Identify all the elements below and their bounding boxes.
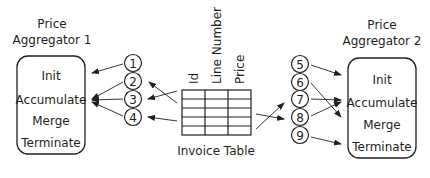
arrow-table-to-4 xyxy=(148,117,177,121)
arrow-5-to-init xyxy=(311,65,341,75)
arrow-9-to-terminate xyxy=(311,137,341,144)
svg-text:1: 1 xyxy=(129,57,137,71)
right-nodes: 5 6 7 8 9 xyxy=(292,56,309,144)
arrow-1-to-init xyxy=(92,64,123,73)
column-header-id: Id xyxy=(187,73,201,84)
left-nodes: 1 2 3 4 xyxy=(125,55,142,126)
aggregator-2-op-accumulate: Accumulate xyxy=(347,96,418,110)
node-6: 6 xyxy=(292,74,309,91)
aggregator-1-op-init: Init xyxy=(41,69,60,83)
invoice-table: Id Line Number Price Invoice Table xyxy=(177,7,255,158)
aggregator-2-op-terminate: Terminate xyxy=(351,140,411,154)
aggregator-2-title-line1: Price xyxy=(367,18,396,32)
diagram-canvas: Price Aggregator 1 Init Accumulate Merge… xyxy=(0,0,430,178)
arrows-to-aggregator-2 xyxy=(311,65,341,144)
aggregator-2-op-init: Init xyxy=(372,73,391,87)
svg-text:4: 4 xyxy=(129,111,137,125)
arrow-table-to-8 xyxy=(256,114,284,119)
arrow-2-to-accumulate xyxy=(92,82,123,99)
arrow-table-to-7 xyxy=(256,103,284,129)
svg-text:5: 5 xyxy=(296,58,304,72)
table-caption: Invoice Table xyxy=(177,144,255,158)
aggregator-1-op-merge: Merge xyxy=(32,114,69,128)
svg-text:7: 7 xyxy=(296,93,304,107)
table-grid xyxy=(182,90,251,135)
arrow-8-to-accumulate xyxy=(311,102,341,116)
price-aggregator-1: Price Aggregator 1 Init Accumulate Merge… xyxy=(13,17,92,154)
aggregator-2-title-line2: Aggregator 2 xyxy=(343,34,422,48)
node-3: 3 xyxy=(125,91,142,108)
svg-text:2: 2 xyxy=(129,75,137,89)
node-2: 2 xyxy=(125,73,142,90)
svg-text:3: 3 xyxy=(129,93,137,107)
arrow-7-to-accumulate xyxy=(311,99,341,100)
node-8: 8 xyxy=(292,109,309,126)
arrow-3-to-accumulate xyxy=(92,99,123,100)
price-aggregator-2: Price Aggregator 2 Init Accumulate Merge… xyxy=(343,18,422,158)
arrow-4-to-accumulate xyxy=(92,102,123,116)
arrows-table-to-right-nodes xyxy=(256,103,284,129)
column-header-price: Price xyxy=(233,55,247,84)
node-1: 1 xyxy=(125,55,142,72)
svg-text:6: 6 xyxy=(296,76,304,90)
aggregator-1-op-terminate: Terminate xyxy=(20,136,80,150)
aggregator-2-op-merge: Merge xyxy=(363,118,400,132)
arrows-to-aggregator-1 xyxy=(92,64,123,116)
aggregator-1-title-line1: Price xyxy=(37,17,66,31)
svg-text:9: 9 xyxy=(296,129,304,143)
aggregator-1-title-line2: Aggregator 1 xyxy=(13,33,92,47)
node-5: 5 xyxy=(292,56,309,73)
node-7: 7 xyxy=(292,91,309,108)
aggregator-1-op-accumulate: Accumulate xyxy=(16,93,87,107)
arrows-table-to-left-nodes xyxy=(148,82,177,121)
column-header-line-number: Line Number xyxy=(210,7,224,84)
node-9: 9 xyxy=(292,127,309,144)
node-4: 4 xyxy=(125,109,142,126)
svg-text:8: 8 xyxy=(296,111,304,125)
